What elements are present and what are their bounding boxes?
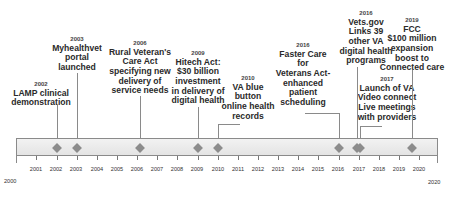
event-2002-lamp: 2002 LAMP clinical demonstration	[11, 81, 71, 108]
connector-2017-h	[360, 126, 382, 127]
event-2009-hitech-act: 2009 Hitech Act: $30 billion investment …	[171, 50, 224, 106]
tick-label: 2013	[272, 166, 284, 172]
tick-label: 2012	[252, 166, 264, 172]
connector-2016a-h	[305, 113, 339, 114]
event-text: VA blue button online health records	[222, 83, 275, 122]
event-year: 2017	[358, 76, 417, 83]
tick	[379, 156, 380, 160]
tick	[238, 156, 239, 160]
axis-end-label: 2020	[428, 179, 440, 185]
tick-label: 2005	[111, 166, 123, 172]
event-text: Myhealthvet portal launched	[52, 44, 102, 73]
tick-label: 2001	[30, 166, 42, 172]
event-text: Hitech Act: $30 billion investment in de…	[171, 58, 224, 106]
event-year: 2016	[276, 42, 331, 49]
tick	[339, 156, 340, 160]
tick-label: 2007	[151, 166, 163, 172]
tick	[36, 156, 37, 160]
connector-2019	[412, 70, 413, 148]
tick-label: 2020	[413, 166, 425, 172]
event-year: 2016	[340, 10, 393, 17]
event-text: LAMP clinical demonstration	[11, 89, 71, 108]
event-year: 2002	[11, 81, 71, 88]
event-2010-blue-button: 2010 VA blue button online health record…	[222, 75, 275, 121]
tick	[218, 156, 219, 160]
connector-2010-h	[218, 124, 240, 125]
tick	[258, 156, 259, 160]
event-year: 2009	[171, 50, 224, 57]
event-year: 2010	[222, 75, 275, 82]
tick-label: 2011	[232, 166, 244, 172]
axis-start-label: 2000	[4, 178, 16, 184]
tick	[298, 156, 299, 160]
event-year: 2003	[52, 36, 102, 43]
tick	[117, 156, 118, 160]
connector-2003	[77, 73, 78, 148]
tick	[419, 156, 420, 160]
event-text: Faster Care for Veterans Act- enhanced p…	[276, 50, 331, 108]
tick	[157, 156, 158, 160]
event-2019-fcc: 2019 FCC $100 million expansion boost to…	[380, 17, 444, 73]
event-text: FCC $100 million expansion boost to Conn…	[380, 25, 444, 73]
tick-label: 2019	[393, 166, 405, 172]
tick	[278, 156, 279, 160]
axis-right-edge	[437, 138, 438, 163]
event-text: Launch of VA Video connect Live meetings…	[358, 84, 417, 123]
event-2006-rural-veterans-care-act: 2006 Rural Veteran's Care Act specifying…	[109, 40, 171, 96]
tick-label: 2018	[373, 166, 385, 172]
tick-label: 2014	[292, 166, 304, 172]
tick-label: 2010	[212, 166, 224, 172]
tick-label: 2008	[171, 166, 183, 172]
event-year: 2006	[109, 40, 171, 47]
tick	[359, 156, 360, 160]
tick	[399, 156, 400, 160]
event-2003-myhealthvet: 2003 Myhealthvet portal launched	[52, 36, 102, 73]
event-text: Rural Veteran's Care Act specifying new …	[109, 48, 171, 96]
event-2017-va-video-connect: 2017 Launch of VA Video connect Live mee…	[358, 76, 417, 122]
tick-label: 2006	[131, 166, 143, 172]
axis-left-edge	[16, 138, 17, 163]
tick-label: 2009	[191, 166, 203, 172]
connector-2016b	[357, 67, 358, 148]
tick	[57, 156, 58, 160]
tick	[318, 156, 319, 160]
tick-label: 2017	[353, 166, 365, 172]
tick-label: 2016	[332, 166, 344, 172]
tick	[198, 156, 199, 160]
tick-label: 2003	[70, 166, 82, 172]
tick-label: 2015	[312, 166, 324, 172]
tick-label: 2004	[91, 166, 103, 172]
tick-label: 2002	[50, 166, 62, 172]
tick	[77, 156, 78, 160]
event-year: 2019	[380, 17, 444, 24]
tick	[137, 156, 138, 160]
event-2016-faster-care: 2016 Faster Care for Veterans Act- enhan…	[276, 42, 331, 107]
tick	[177, 156, 178, 160]
tick	[97, 156, 98, 160]
